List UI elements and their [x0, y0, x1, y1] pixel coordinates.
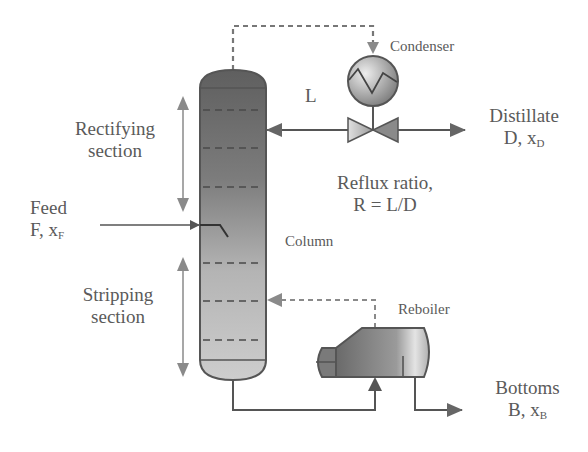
stripping-section-label: Stripping section: [63, 284, 173, 328]
distillate-label-line2: D, xD: [474, 127, 574, 150]
feed-label: Feed F, xF: [30, 197, 67, 241]
feed-symbol: F, x: [30, 219, 58, 240]
boilup-vapor-line: [267, 293, 375, 328]
bottoms-line2: B, xB: [480, 399, 575, 422]
bottoms-subscript: B: [540, 409, 547, 421]
stripping-line2: section: [63, 306, 173, 328]
reflux-stream-label: L: [305, 85, 317, 107]
rectifying-section-arrow: [177, 96, 189, 212]
bottoms-label: Bottoms B, xB: [480, 377, 575, 421]
bottoms-line: [415, 377, 462, 410]
bottoms-line1: Bottoms: [480, 377, 575, 399]
distillate-subscript: D: [536, 137, 544, 149]
stripping-line1: Stripping: [63, 284, 173, 306]
reboiler-label: Reboiler: [398, 301, 450, 318]
feed-subscript: F: [58, 229, 64, 241]
column: [200, 70, 266, 380]
feed-line1: Feed: [30, 197, 67, 219]
distillate-label: Distillate D, xD: [474, 105, 574, 149]
feed-line2: F, xF: [30, 219, 67, 242]
condenser-label: Condenser: [390, 38, 454, 55]
reflux-ratio-label: Reflux ratio, R = L/D: [315, 172, 455, 216]
rectifying-section-label: Rectifying section: [60, 118, 170, 162]
reflux-ratio-line1: Reflux ratio,: [315, 172, 455, 194]
distillate-symbol: D, x: [504, 127, 537, 148]
bottoms-symbol: B, x: [508, 399, 540, 420]
condenser: [348, 56, 398, 130]
reflux-ratio-line2: R = L/D: [315, 194, 455, 216]
rectifying-line1: Rectifying: [60, 118, 170, 140]
reboiler: [316, 328, 429, 377]
column-bottoms-line: [233, 380, 375, 410]
distillate-label-line1: Distillate: [474, 105, 574, 127]
rectifying-line2: section: [60, 140, 170, 162]
stripping-section-arrow: [177, 257, 189, 377]
column-label: Column: [285, 233, 333, 250]
